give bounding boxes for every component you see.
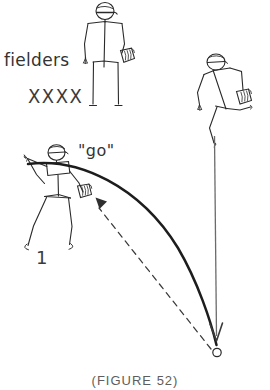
baseball-glove-icon <box>237 89 252 104</box>
ball-marker-icon <box>213 348 221 356</box>
running-fielder-figure-icon <box>198 54 253 147</box>
figure-canvas: fielders XXXX "go" 1 (FIGURE 52) <box>0 0 270 390</box>
go-call-label: "go" <box>78 143 115 159</box>
bare-hand-icon <box>84 58 88 64</box>
batter-figure-icon <box>24 145 92 250</box>
vertical-drop-line-icon <box>215 136 217 336</box>
fielders-label: fielders <box>4 52 69 69</box>
fielder-x-marks-label: XXXX <box>28 88 83 107</box>
dashed-return-throw-arrow-icon <box>96 198 212 350</box>
figure-caption: (FIGURE 52) <box>0 374 270 387</box>
ball-trajectory-curve-icon <box>28 163 217 345</box>
standing-fielder-figure-icon <box>84 3 135 106</box>
baseball-glove-icon <box>121 48 135 62</box>
bare-hand-icon <box>198 105 202 111</box>
baseball-glove-icon <box>78 184 92 198</box>
batter-number-label: 1 <box>36 249 47 267</box>
bare-hand-icon <box>24 155 28 161</box>
